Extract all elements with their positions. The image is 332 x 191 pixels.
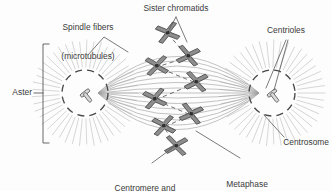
label-spindle-fibers: Spindle fibers (microtubules) (34, 4, 142, 81)
chromosome (155, 21, 181, 44)
label-metaphase-line1: Metaphase (211, 180, 283, 190)
label-centromere-kinetochores: Centromere and kinetochores (90, 165, 200, 191)
label-centrosome: Centrosome (230, 138, 329, 148)
label-centrioles: Centrioles (243, 26, 329, 36)
chromosome (142, 88, 167, 110)
chromosome (176, 45, 201, 67)
label-spindle-fibers-line1: Spindle fibers (34, 23, 142, 33)
label-aster: Aster (0, 88, 32, 98)
label-spindle-fibers-line2: (microtubules) (34, 52, 142, 62)
label-metaphase-plate: Metaphase plate (211, 161, 283, 191)
label-sister-chromatids: Sister chromatids (126, 4, 226, 14)
chromosome (164, 135, 188, 156)
chromosome (184, 71, 209, 93)
left-centriole-pair (80, 88, 93, 102)
chromosome (178, 102, 204, 125)
chromosome (151, 115, 176, 137)
mitotic-spindle-diagram: Spindle fibers (microtubules) Sister chr… (0, 0, 332, 191)
leader-centrosome (264, 115, 284, 137)
leader-centromere (152, 146, 175, 163)
right-centriole-pair (267, 88, 280, 102)
label-centromere-line1: Centromere and (90, 184, 200, 191)
